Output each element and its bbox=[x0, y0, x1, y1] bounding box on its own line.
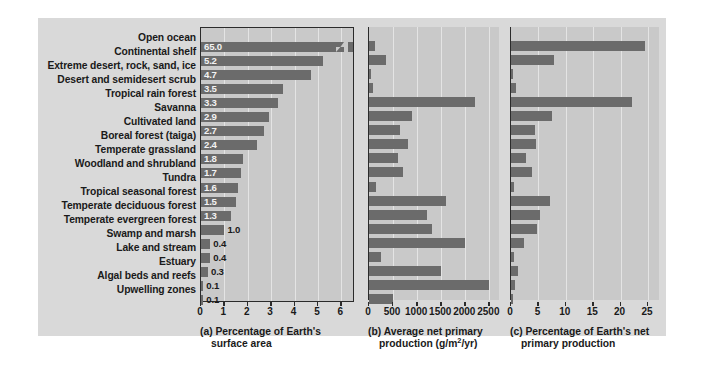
bar bbox=[511, 83, 516, 93]
ecosystem-label-text: Tropical seasonal forest bbox=[81, 186, 197, 197]
caption-units-post: /yr) bbox=[461, 338, 477, 349]
ecosystem-label: Boreal forest (taiga) bbox=[38, 128, 200, 142]
ecosystem-label: Lake and stream bbox=[38, 241, 200, 255]
axis-tick-label: 0 bbox=[365, 306, 371, 317]
bar bbox=[369, 69, 371, 79]
bar bbox=[511, 97, 632, 107]
gridline bbox=[489, 27, 490, 300]
chart-b-plot-area bbox=[369, 27, 499, 300]
bar bbox=[369, 238, 465, 248]
bar-value-label: 1.8 bbox=[204, 154, 217, 164]
bar bbox=[369, 224, 432, 234]
ecosystem-label-text: Cultivated land bbox=[124, 116, 196, 127]
gridline bbox=[538, 27, 539, 300]
axis-tick-label: 1000 bbox=[405, 306, 427, 317]
gridline bbox=[295, 28, 296, 301]
axis-tick-label: 3 bbox=[267, 306, 273, 317]
bar bbox=[511, 41, 645, 51]
bar-value-label: 3.5 bbox=[204, 84, 217, 94]
bar bbox=[369, 83, 373, 93]
ecosystem-label: Cultivated land bbox=[38, 114, 200, 128]
axis-tick-label: 2500 bbox=[477, 306, 499, 317]
ecosystem-label-text: Woodland and shrubland bbox=[75, 158, 196, 169]
ecosystem-label-text: Extreme desert, rock, sand, ice bbox=[47, 60, 196, 71]
ecosystem-label: Tundra bbox=[38, 170, 200, 184]
caption-line-1: (a) Percentage of Earth's bbox=[200, 326, 321, 337]
axis-tick-label: 5 bbox=[535, 306, 541, 317]
bar bbox=[201, 253, 210, 263]
ecosystem-label-text: Temperate evergreen forest bbox=[64, 214, 196, 225]
bar-value-label: 0.3 bbox=[211, 267, 224, 277]
caption-line-1: (b) Average net primary bbox=[368, 326, 483, 337]
ecosystem-label: Woodland and shrubland bbox=[38, 156, 200, 170]
chart-c-x-axis: 0510152025 bbox=[510, 302, 658, 322]
ecosystem-label: Continental shelf bbox=[38, 44, 200, 58]
bar bbox=[511, 55, 554, 65]
bar bbox=[369, 97, 475, 107]
bar bbox=[369, 41, 375, 51]
bar bbox=[511, 238, 524, 248]
caption-line-2: surface area bbox=[200, 338, 382, 350]
axis-tick-label: 5 bbox=[314, 306, 320, 317]
gridline bbox=[621, 27, 622, 300]
bar bbox=[369, 266, 441, 276]
axis-tick-label: 0 bbox=[197, 306, 203, 317]
ecosystem-label-text: Swamp and marsh bbox=[107, 228, 196, 239]
ecosystem-label-text: Tundra bbox=[162, 172, 196, 183]
bar-value-label: 3.3 bbox=[204, 98, 217, 108]
bar-value-label: 1.0 bbox=[227, 225, 240, 235]
bar bbox=[369, 111, 412, 121]
bar-value-label: 0.1 bbox=[206, 281, 219, 291]
bar bbox=[511, 252, 514, 262]
ecosystem-label-text: Desert and semidesert scrub bbox=[57, 74, 196, 85]
ecosystem-label: Open ocean bbox=[38, 30, 200, 44]
gridline bbox=[566, 27, 567, 300]
bar-value-label: 2.4 bbox=[204, 140, 217, 150]
axis-tick-label: 2000 bbox=[453, 306, 475, 317]
ecosystem-label: Savanna bbox=[38, 100, 200, 114]
ecosystem-label: Upwelling zones bbox=[38, 283, 200, 297]
ecosystem-label-text: Continental shelf bbox=[114, 46, 196, 57]
bar-value-label: 1.7 bbox=[204, 168, 217, 178]
caption-units-pre: production (g/m bbox=[379, 338, 457, 349]
chart-a-x-axis: 0123456 bbox=[200, 302, 352, 322]
gridline bbox=[341, 28, 342, 301]
gridline bbox=[393, 27, 394, 300]
axis-tick-label: 10 bbox=[559, 306, 570, 317]
ecosystem-label-text: Savanna bbox=[154, 102, 196, 113]
bar bbox=[511, 69, 513, 79]
ecosystem-label-text: Open ocean bbox=[138, 32, 196, 43]
ecosystem-label: Estuary bbox=[38, 255, 200, 269]
caption-line-2: production (g/m2/yr) bbox=[368, 338, 528, 350]
bar-value-label: 65.0 bbox=[204, 42, 222, 52]
axis-tick-label: 20 bbox=[614, 306, 625, 317]
ecosystem-label: Swamp and marsh bbox=[38, 227, 200, 241]
ecosystem-label: Temperate evergreen forest bbox=[38, 213, 200, 227]
bar-value-label: 1.6 bbox=[204, 183, 217, 193]
bar bbox=[511, 125, 535, 135]
ecosystem-label-text: Algal beds and reefs bbox=[97, 270, 196, 281]
ecosystem-label: Extreme desert, rock, sand, ice bbox=[38, 58, 200, 72]
bar bbox=[369, 196, 446, 206]
axis-tick-label: 4 bbox=[291, 306, 297, 317]
bar-value-label: 2.7 bbox=[204, 126, 217, 136]
ecosystem-label: Tropical rain forest bbox=[38, 86, 200, 100]
bar-value-label: 0.4 bbox=[213, 239, 226, 249]
axis-tick-label: 1500 bbox=[429, 306, 451, 317]
bar bbox=[511, 153, 526, 163]
axis-tick-label: 6 bbox=[338, 306, 344, 317]
chart-b-caption: (b) Average net primaryproduction (g/m2/… bbox=[368, 326, 528, 351]
gridline bbox=[248, 28, 249, 301]
ecosystem-label: Temperate deciduous forest bbox=[38, 199, 200, 213]
ecosystem-label-text: Tropical rain forest bbox=[105, 88, 196, 99]
gridline bbox=[465, 27, 466, 300]
axis-tick-label: 15 bbox=[587, 306, 598, 317]
ecosystem-label: Algal beds and reefs bbox=[38, 269, 200, 283]
axis-tick-label: 2 bbox=[244, 306, 250, 317]
bar bbox=[511, 280, 515, 290]
axis-tick-label: 500 bbox=[384, 306, 401, 317]
chart-b-panel bbox=[368, 27, 499, 300]
gridline bbox=[593, 27, 594, 300]
bar bbox=[511, 111, 552, 121]
bar-value-label: 0.4 bbox=[213, 253, 226, 263]
